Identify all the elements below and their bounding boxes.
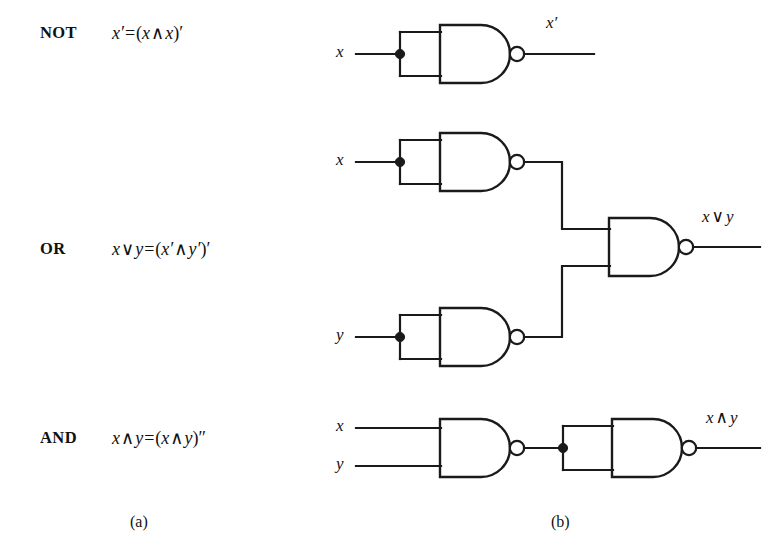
or-bottom-junction-dot xyxy=(395,332,404,341)
not-inverter-bubble-icon xyxy=(510,47,524,61)
not-nand-gate-body xyxy=(440,25,510,83)
formula-or: x∨y=(x′∧y′)′ xyxy=(112,238,210,260)
or-top-output-wire xyxy=(524,162,610,229)
and-first-inverter-bubble-icon xyxy=(510,441,524,455)
not-junction-dot xyxy=(395,49,404,58)
formula-and-eq: = xyxy=(143,428,155,448)
formula-or-lhs-a: x xyxy=(112,239,120,259)
formula-or-lhs-b: y xyxy=(135,239,143,259)
formula-or-operand-a: x′ xyxy=(161,239,173,259)
or-output-label-b: y xyxy=(726,207,734,226)
circuit-and xyxy=(356,419,760,477)
formula-and-prime: ″ xyxy=(199,428,207,448)
and-output-label-operator: ∧ xyxy=(714,408,730,427)
formula-not: x′=(x∧x)′ xyxy=(112,22,183,44)
circuit-not xyxy=(356,25,594,83)
and-input-label-y: y xyxy=(336,454,344,474)
or-top-junction-dot xyxy=(395,157,404,166)
panel-caption-b: (b) xyxy=(551,513,570,531)
and-second-nand-gate-body xyxy=(612,419,682,477)
formula-and-lhs-b: y xyxy=(135,428,143,448)
or-final-inverter-bubble-icon xyxy=(679,240,693,254)
or-bottom-nand-gate-body xyxy=(440,308,510,366)
formula-not-operator: ∧ xyxy=(150,23,165,43)
formula-not-eq: = xyxy=(124,23,136,43)
formula-and-lhs-operator: ∧ xyxy=(120,428,135,448)
and-output-label: x∧y xyxy=(706,407,738,428)
figure-root: NOT x′=(x∧x)′ OR x∨y=(x′∧y′)′ AND x∧y=(x… xyxy=(0,0,777,556)
formula-not-prime: ′ xyxy=(179,23,183,43)
and-junction-dot xyxy=(558,443,567,452)
or-bottom-inverter-bubble-icon xyxy=(510,330,524,344)
formula-not-operand-a: x xyxy=(142,23,150,43)
formula-and-operand-b: y xyxy=(185,428,193,448)
formula-or-operand-b: y′ xyxy=(188,239,200,259)
formula-or-lhs-operator: ∨ xyxy=(120,239,135,259)
not-input-label-x: x xyxy=(336,42,344,62)
formula-or-eq: = xyxy=(143,239,155,259)
formula-and-operator: ∧ xyxy=(169,428,184,448)
or-top-nand-gate-body xyxy=(440,133,510,191)
not-output-label: x′ xyxy=(546,13,557,33)
or-input-label-x: x xyxy=(336,150,344,170)
row-label-and: AND xyxy=(40,428,77,448)
or-output-label: x∨y xyxy=(702,206,734,227)
and-output-label-b: y xyxy=(730,408,738,427)
or-output-label-operator: ∨ xyxy=(710,207,726,226)
and-output-label-a: x xyxy=(706,408,714,427)
or-top-inverter-bubble-icon xyxy=(510,155,524,169)
and-first-nand-gate-body xyxy=(440,419,510,477)
and-second-inverter-bubble-icon xyxy=(682,441,696,455)
circuit-or xyxy=(356,133,760,366)
formula-or-prime: ′ xyxy=(206,239,210,259)
and-input-label-x: x xyxy=(336,416,344,436)
formula-and: x∧y=(x∧y)″ xyxy=(112,427,206,449)
row-label-not: NOT xyxy=(40,23,77,43)
formula-not-lhs: x′ xyxy=(112,23,124,43)
formula-and-lhs-a: x xyxy=(112,428,120,448)
or-final-nand-gate-body xyxy=(609,218,679,276)
or-output-label-a: x xyxy=(702,207,710,226)
or-bottom-output-wire xyxy=(524,266,610,337)
circuit-diagrams xyxy=(0,0,777,556)
or-input-label-y: y xyxy=(336,325,344,345)
panel-caption-a: (a) xyxy=(130,513,148,531)
row-label-or: OR xyxy=(40,239,66,259)
formula-or-operator: ∧ xyxy=(173,239,188,259)
